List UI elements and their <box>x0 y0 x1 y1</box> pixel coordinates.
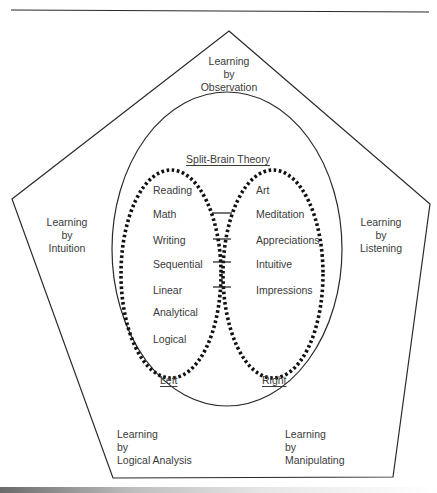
diagram-canvas: Learning by Observation Learning by Intu… <box>0 0 437 493</box>
diagram-title: Split-Brain Theory <box>180 153 276 166</box>
left-item-logical: Logical <box>153 333 186 345</box>
label-learning-by-logical-analysis: Learning by Logical Analysis <box>117 428 192 467</box>
left-item-analytical: Analytical <box>153 306 198 318</box>
label-learning-by-manipulating: Learning by Manipulating <box>285 428 345 467</box>
left-hemisphere-loop <box>121 170 221 378</box>
bottom-rule <box>0 487 437 493</box>
right-hemisphere-loop <box>223 170 323 378</box>
left-item-sequential: Sequential <box>153 258 203 270</box>
left-item-writing: Writing <box>153 234 185 246</box>
right-item-meditation: Meditation <box>256 208 304 220</box>
left-item-math: Math <box>153 208 176 220</box>
brain-ellipse <box>112 92 342 406</box>
right-item-art: Art <box>256 184 269 196</box>
left-item-reading: Reading <box>153 184 192 196</box>
right-item-appreciations: Appreciations <box>256 234 320 246</box>
left-item-linear: Linear <box>153 284 182 296</box>
left-hemisphere-label: Left <box>160 374 178 386</box>
label-learning-by-observation: Learning by Observation <box>200 55 258 94</box>
label-learning-by-listening: Learning by Listening <box>359 216 403 255</box>
right-item-intuitive: Intuitive <box>256 258 292 270</box>
right-hemisphere-label: Right <box>262 374 287 386</box>
right-item-impressions: Impressions <box>256 284 313 296</box>
top-rule <box>11 10 429 12</box>
label-learning-by-intuition: Learning by Intuition <box>45 216 89 255</box>
